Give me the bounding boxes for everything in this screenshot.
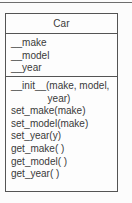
- method-item: set_make(make): [11, 105, 113, 118]
- class-methods-compartment: __init__(make, model, year) set_make(mak…: [6, 77, 117, 191]
- class-name-compartment: Car: [6, 14, 117, 34]
- method-signature-line1: __init__(make, model,: [11, 80, 109, 91]
- uml-class-box: Car __make __model __year __init__(make,…: [5, 13, 118, 192]
- class-attributes-compartment: __make __model __year: [6, 34, 117, 77]
- method-item: __init__(make, model, year): [11, 80, 113, 105]
- attribute-item: __year: [11, 62, 117, 75]
- attribute-item: __make: [11, 37, 117, 50]
- attribute-item: __model: [11, 50, 117, 63]
- method-item: get_model( ): [11, 156, 113, 169]
- class-name-label: Car: [53, 18, 69, 29]
- top-divider-rule: [0, 2, 132, 3]
- method-signature-line2: year): [11, 93, 113, 106]
- method-item: get_year( ): [11, 168, 113, 181]
- method-item: get_make( ): [11, 143, 113, 156]
- method-item: set_year(y): [11, 130, 113, 143]
- method-item: set_model(make): [11, 118, 113, 131]
